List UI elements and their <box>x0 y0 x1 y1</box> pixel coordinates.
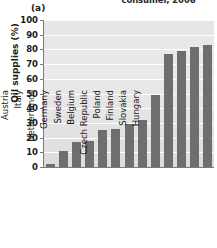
gridline <box>44 64 214 65</box>
bar <box>151 95 160 167</box>
x-axis-category-label: Finland <box>105 90 115 170</box>
y-tick-label: 100 <box>14 16 38 25</box>
y-tick-mark <box>40 49 44 50</box>
gridline <box>44 35 214 36</box>
bar <box>203 45 212 167</box>
y-tick-label: 60 <box>14 75 38 84</box>
y-tick-mark <box>40 64 44 65</box>
y-tick-mark <box>40 79 44 80</box>
gridline <box>44 20 214 21</box>
x-axis-category-label: Netherlands <box>26 90 36 170</box>
bar <box>190 47 199 168</box>
y-tick-mark <box>40 35 44 36</box>
panel-label: (a) <box>31 3 45 13</box>
x-axis-category-label: Hungary <box>131 90 141 170</box>
x-axis-category-label: Italy <box>13 90 23 170</box>
gridline <box>44 49 214 50</box>
y-tick-label: 80 <box>14 45 38 54</box>
y-tick-mark <box>40 20 44 21</box>
bar <box>164 54 173 167</box>
figure-panel-a: consumer, 2006 (a) Oil supplies (%) 1009… <box>0 0 217 248</box>
x-axis-category-label: Slovakia <box>118 90 128 170</box>
x-axis-category-label: Austria <box>0 90 10 170</box>
chart-title: consumer, 2006 <box>100 0 217 5</box>
x-axis-category-label: Poland <box>92 90 102 170</box>
bar <box>177 51 186 167</box>
gridline <box>44 79 214 80</box>
y-tick-label: 90 <box>14 31 38 40</box>
x-axis-category-label: Belgium <box>66 90 76 170</box>
y-tick-label: 70 <box>14 60 38 69</box>
x-axis-category-label: Germany <box>39 90 49 170</box>
x-axis-category-label: Sweden <box>53 90 63 170</box>
x-axis-category-label: Czech Republic <box>79 90 89 170</box>
